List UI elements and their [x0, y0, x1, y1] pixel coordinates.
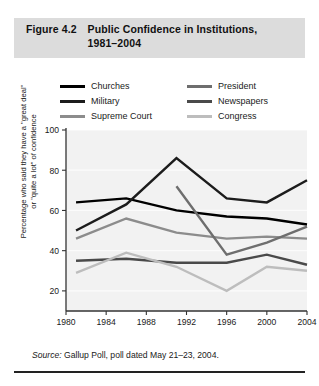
series-line-president — [176, 186, 307, 254]
figure-container: Figure 4.2 Public Confidence in Institut… — [0, 0, 319, 386]
source-caption: Source: Gallup Poll, poll dated May 21–2… — [32, 350, 219, 360]
x-axis-tick-label: 1996 — [217, 317, 236, 327]
legend-label-supreme-court: Supreme Court — [91, 111, 152, 122]
y-axis-label-line1: Percentage who said they have a "great d… — [19, 72, 29, 252]
legend-item-churches: Churches — [60, 79, 152, 94]
plot-background — [66, 130, 307, 311]
legend-column-right: President Newspapers Congress — [187, 79, 268, 124]
legend-column-left: Churches Military Supreme Court — [60, 79, 152, 124]
y-axis-tick-label: 20 — [49, 286, 59, 296]
bottom-divider — [14, 371, 305, 373]
chart-legend: Churches Military Supreme Court Presiden… — [60, 79, 310, 125]
figure-title-band: Figure 4.2 Public Confidence in Institut… — [14, 18, 305, 58]
legend-item-congress: Congress — [187, 109, 268, 124]
x-axis-tick-label: 2004 — [297, 317, 316, 327]
x-axis-tick-label: 1984 — [97, 317, 116, 327]
figure-title-line2: 1981–2004 — [88, 37, 258, 51]
legend-swatch-president — [187, 85, 212, 88]
legend-label-president: President — [218, 81, 256, 92]
legend-swatch-congress — [187, 115, 212, 118]
y-axis-tick-label: 100 — [45, 125, 60, 135]
series-line-military — [76, 158, 307, 230]
x-axis-tick-label: 1992 — [177, 317, 196, 327]
series-line-congress — [76, 253, 307, 291]
legend-label-churches: Churches — [91, 81, 130, 92]
legend-swatch-churches — [60, 85, 85, 88]
figure-title-line1: Public Confidence in Institutions, — [88, 23, 258, 35]
legend-item-president: President — [187, 79, 268, 94]
legend-label-newspapers: Newspapers — [218, 96, 268, 107]
page-title: Public Confidence in Institutions, 1981–… — [88, 23, 258, 50]
legend-label-congress: Congress — [218, 111, 257, 122]
x-axis-tick-label: 1988 — [137, 317, 156, 327]
y-axis-label: Percentage who said they have a "great d… — [19, 72, 38, 252]
legend-item-supreme-court: Supreme Court — [60, 109, 152, 124]
legend-item-military: Military — [60, 94, 152, 109]
y-axis-tick-label: 60 — [49, 206, 59, 216]
legend-label-military: Military — [91, 96, 120, 107]
legend-swatch-newspapers — [187, 100, 212, 103]
source-text: Gallup Poll, poll dated May 21–23, 2004. — [64, 350, 219, 360]
y-axis-label-line2: or "quite a lot" of confidence — [28, 72, 38, 252]
y-axis-tick-label: 80 — [49, 166, 59, 176]
y-axis-tick-label: 40 — [49, 246, 59, 256]
legend-swatch-supreme-court — [60, 115, 85, 118]
series-line-churches — [76, 198, 307, 224]
x-axis-tick-label: 2000 — [257, 317, 276, 327]
legend-swatch-military — [60, 100, 85, 103]
figure-number: Figure 4.2 — [26, 23, 77, 35]
x-axis-tick-label: 1980 — [56, 317, 75, 327]
source-prefix: Source: — [32, 350, 62, 360]
legend-item-newspapers: Newspapers — [187, 94, 268, 109]
series-line-supreme-court — [76, 218, 307, 238]
series-line-newspapers — [76, 255, 307, 265]
